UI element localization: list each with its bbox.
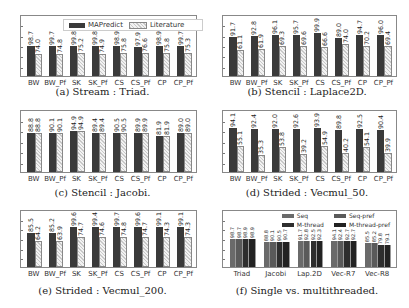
- legend-label: MAPredict: [88, 21, 123, 29]
- value-label: 92.0: [272, 114, 277, 128]
- chart-frame-e: 85.564.285.263.999.674.799.474.699.774.8…: [20, 210, 197, 268]
- value-label: 69.3: [279, 31, 284, 45]
- value-label: 89.9: [135, 118, 140, 132]
- legend-swatch: [282, 223, 294, 227]
- y-tick: [21, 240, 23, 241]
- value-label: 90.1: [57, 118, 62, 132]
- value-label: 74.8: [57, 39, 62, 53]
- bar-mapredict: [156, 227, 163, 267]
- x-tick-label: CP_Pf: [363, 175, 403, 183]
- value-label: 96.1: [272, 20, 277, 34]
- bar-literature: [120, 237, 127, 267]
- caption-e: (e) Strided : Vecmul_200.: [0, 285, 205, 296]
- value-label: 98.7: [28, 31, 33, 45]
- bar-literature: [142, 133, 149, 172]
- caption-a: (a) Stream : Triad.: [0, 86, 205, 97]
- value-label: 75.2: [78, 38, 83, 52]
- bar-literature: [99, 54, 106, 76]
- y-tick: [21, 143, 23, 144]
- value-label: 99.6: [135, 212, 140, 226]
- bar-mapredict: [134, 133, 141, 172]
- value-label: 89.8: [336, 115, 341, 129]
- y-tick: [21, 26, 23, 27]
- bar-m-thread-pref: [317, 241, 323, 267]
- value-label: 69.6: [301, 31, 306, 45]
- y-tick: [21, 68, 23, 69]
- legend-item-m-thread: M-thread: [282, 221, 324, 228]
- y-tick: [223, 122, 225, 123]
- y-tick: [21, 230, 23, 231]
- value-label: 55.1: [237, 131, 242, 145]
- value-label: 92.7: [345, 229, 350, 240]
- value-label: 94.7: [357, 20, 362, 34]
- value-label: 89.0: [185, 118, 190, 132]
- bar-literature: [77, 53, 84, 76]
- y-tick: [223, 259, 225, 260]
- x-tick-label: Vec-R8: [357, 270, 397, 278]
- chart-frame-c: 88.888.890.190.194.994.989.489.490.590.5…: [20, 110, 197, 173]
- legend-label: M-thread-pref: [349, 221, 390, 228]
- chart-frame-a: 98.774.099.774.899.875.299.874.998.975.8…: [20, 15, 197, 77]
- bar-literature: [163, 237, 170, 267]
- value-label: 85.5: [365, 231, 370, 242]
- legend-swatch-dark: [69, 23, 85, 28]
- y-tick: [223, 26, 225, 27]
- value-label: 92.7: [351, 229, 356, 240]
- bar-literature: [120, 133, 127, 172]
- value-label: 70.2: [364, 31, 369, 45]
- y-tick: [223, 240, 225, 241]
- bar-literature: [99, 133, 106, 172]
- value-label: 89.9: [142, 118, 147, 132]
- y-tick: [21, 164, 23, 165]
- y-tick: [21, 250, 23, 251]
- y-tick: [223, 143, 225, 144]
- bar-literature: [184, 133, 191, 172]
- bar-mapredict: [293, 129, 300, 172]
- legend-swatch: [334, 214, 346, 218]
- x-tick-label: CP_Pf: [163, 175, 203, 183]
- bar-literature: [300, 154, 307, 172]
- bar-mapredict: [49, 46, 56, 76]
- value-label: 90.1: [49, 118, 54, 132]
- value-label: 92.4: [251, 114, 256, 128]
- value-label: 75.8: [164, 38, 169, 52]
- bar-literature: [120, 53, 127, 76]
- value-label: 98.7: [237, 227, 242, 238]
- bar-literature: [184, 237, 191, 267]
- value-label: 63.9: [57, 226, 62, 240]
- bar-mapredict: [156, 136, 163, 172]
- bar-mapredict: [156, 46, 163, 76]
- bar-literature: [342, 153, 349, 172]
- value-label: 99.1: [156, 212, 161, 226]
- value-label: 98.9: [243, 227, 248, 238]
- bar-mapredict: [293, 35, 300, 76]
- bar-literature: [142, 53, 149, 76]
- value-label: 89.4: [92, 118, 97, 132]
- value-label: 92.4: [338, 229, 343, 240]
- value-label: 74.7: [78, 222, 83, 236]
- value-label: 79.1: [385, 233, 390, 244]
- bar-literature: [163, 53, 170, 76]
- value-label: 92.8: [304, 229, 309, 240]
- bar-m-thread-pref: [249, 239, 255, 267]
- y-tick: [223, 221, 225, 222]
- value-label: 90.5: [114, 118, 119, 132]
- y-tick: [21, 37, 23, 38]
- bar-literature: [321, 146, 328, 172]
- y-tick: [223, 132, 225, 133]
- bar-literature: [237, 146, 244, 172]
- value-label: 85.5: [28, 218, 33, 232]
- bar-literature: [300, 46, 307, 76]
- bar-mapredict: [49, 233, 56, 267]
- bar-mapredict: [70, 131, 77, 172]
- y-tick: [21, 221, 23, 222]
- legend-swatch: [282, 214, 294, 218]
- value-label: 96.0: [378, 20, 383, 34]
- value-label: 99.8: [71, 31, 76, 45]
- value-label: 98.9: [114, 31, 119, 45]
- bar-mapredict: [49, 133, 56, 172]
- value-label: 74.7: [142, 222, 147, 236]
- bar-literature: [77, 237, 84, 267]
- legend-item-m-thread-pref: M-thread-pref: [334, 221, 390, 228]
- value-label: 99.9: [314, 18, 319, 32]
